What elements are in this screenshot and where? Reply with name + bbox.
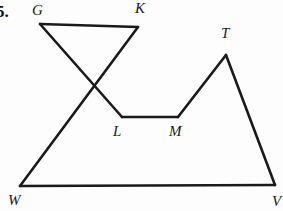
vertex-label-l: L [113,124,121,139]
segment-K-to-W [20,27,138,186]
segment-T-to-V [226,55,275,185]
segment-GK [40,24,138,27]
vertex-label-k: K [135,1,145,16]
vertex-label-v: V [272,194,281,209]
vertex-label-m: M [169,124,182,139]
vertex-label-g: G [32,3,43,18]
segment-W-to-V [20,185,275,186]
geometry-figure: 5. G K T L M W V [0,0,283,211]
vertex-label-t: T [221,26,229,41]
figure-line-drawing [0,0,283,211]
vertex-label-w: W [8,193,21,208]
segment-M-to-T [178,55,226,117]
problem-number: 5. [0,3,9,20]
